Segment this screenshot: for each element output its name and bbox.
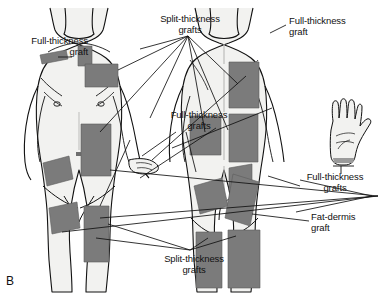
label-split-thickness-grafts-top: Split-thickness grafts [148, 14, 232, 35]
label-fat-dermis-graft: Fat-dermis graft [311, 212, 379, 233]
label-full-thickness-graft-left: Full-thickness graft [2, 36, 88, 57]
anterior-neck [64, 8, 94, 39]
graft-posterior-upper-back [229, 62, 259, 108]
leader-full-thickness-top-right [270, 25, 286, 33]
graft-anterior-thigh [84, 206, 109, 262]
hand-wrist-shade [333, 158, 354, 163]
label-split-thickness-grafts-bottom: Split-thickness grafts [152, 254, 236, 275]
graft-anterior-abdomen [81, 124, 111, 176]
hand-figure [330, 99, 371, 174]
panel-letter-b: B [6, 274, 14, 288]
anterior-arm-left [24, 86, 38, 180]
graft-anterior-groin [49, 202, 80, 234]
posterior-arm-right [265, 86, 284, 162]
hand-outline [330, 99, 371, 165]
leader-full-thickness-center-a [142, 132, 176, 156]
leader-fat-dermis [252, 214, 309, 221]
label-full-thickness-grafts-center: Full-thickness grafts [157, 110, 241, 131]
skin-graft-donor-site-diagram: Full-thickness graft Split-thickness gra… [0, 0, 379, 299]
leader-split-top-a [140, 36, 188, 49]
label-full-thickness-grafts-right: Full-thickness grafts [293, 172, 377, 193]
graft-anterior-upper-chest [85, 64, 118, 87]
leader-split-bottom-a [108, 224, 190, 250]
anterior-hand-right [129, 159, 159, 174]
leader-split-top-b [118, 36, 188, 70]
label-full-thickness-graft-right: Full-thickness graft [289, 16, 377, 37]
